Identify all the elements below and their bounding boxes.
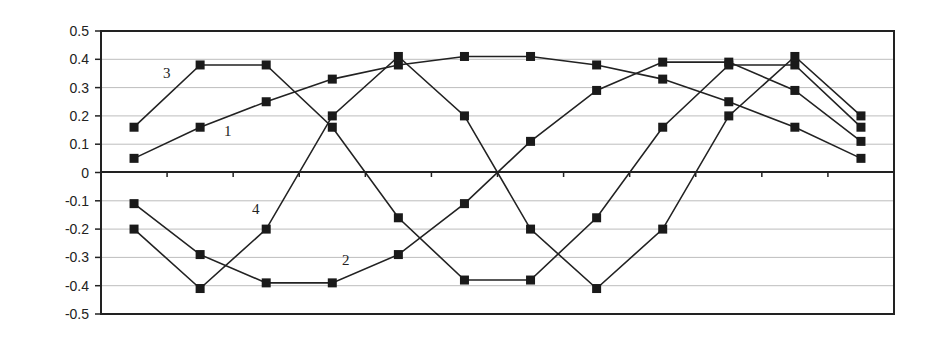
series-label-1: 1 xyxy=(224,123,232,139)
square-marker-icon xyxy=(856,154,865,163)
square-marker-icon xyxy=(196,123,205,132)
square-marker-icon xyxy=(526,137,535,146)
square-marker-icon xyxy=(592,86,601,95)
series-label-3: 3 xyxy=(163,65,171,81)
square-marker-icon xyxy=(394,60,403,69)
square-marker-icon xyxy=(394,213,403,222)
square-marker-icon xyxy=(592,284,601,293)
y-tick-label: 0.3 xyxy=(70,80,90,96)
square-marker-icon xyxy=(460,52,469,61)
square-marker-icon xyxy=(790,123,799,132)
square-marker-icon xyxy=(130,225,139,234)
square-marker-icon xyxy=(130,154,139,163)
y-tick-label: 0.2 xyxy=(70,108,90,124)
square-marker-icon xyxy=(526,225,535,234)
square-marker-icon xyxy=(658,123,667,132)
series-label-2: 2 xyxy=(342,252,350,268)
square-marker-icon xyxy=(856,111,865,120)
square-marker-icon xyxy=(724,60,733,69)
square-marker-icon xyxy=(658,58,667,67)
square-marker-icon xyxy=(196,284,205,293)
square-marker-icon xyxy=(460,199,469,208)
y-tick-label: -0.3 xyxy=(65,249,89,265)
square-marker-icon xyxy=(130,123,139,132)
square-marker-icon xyxy=(196,250,205,259)
line-chart: 0.50.40.30.20.10-0.1-0.2-0.3-0.4-0.5 3 1… xyxy=(0,0,940,337)
square-marker-icon xyxy=(460,276,469,285)
square-marker-icon xyxy=(790,86,799,95)
square-marker-icon xyxy=(592,213,601,222)
y-axis-tick-labels: 0.50.40.30.20.10-0.1-0.2-0.3-0.4-0.5 xyxy=(65,23,101,322)
y-tick-label: -0.1 xyxy=(65,193,89,209)
square-marker-icon xyxy=(658,225,667,234)
square-marker-icon xyxy=(328,123,337,132)
square-marker-icon xyxy=(724,111,733,120)
y-tick-label: 0.5 xyxy=(70,23,90,39)
square-marker-icon xyxy=(262,225,271,234)
square-marker-icon xyxy=(724,97,733,106)
square-marker-icon xyxy=(394,250,403,259)
square-marker-icon xyxy=(790,60,799,69)
square-marker-icon xyxy=(526,276,535,285)
square-marker-icon xyxy=(856,123,865,132)
y-tick-label: -0.5 xyxy=(65,306,89,322)
square-marker-icon xyxy=(658,75,667,84)
y-tick-label: -0.2 xyxy=(65,221,89,237)
series-label-4: 4 xyxy=(252,201,260,217)
y-tick-label: 0.1 xyxy=(70,136,90,152)
square-marker-icon xyxy=(262,97,271,106)
square-marker-icon xyxy=(592,60,601,69)
y-tick-label: 0.4 xyxy=(70,51,90,67)
square-marker-icon xyxy=(460,111,469,120)
square-marker-icon xyxy=(262,278,271,287)
square-marker-icon xyxy=(328,278,337,287)
square-marker-icon xyxy=(130,199,139,208)
series-1 xyxy=(130,52,866,163)
square-marker-icon xyxy=(856,137,865,146)
square-marker-icon xyxy=(262,60,271,69)
square-marker-icon xyxy=(526,52,535,61)
square-marker-icon xyxy=(328,111,337,120)
square-marker-icon xyxy=(196,60,205,69)
y-tick-label: 0 xyxy=(81,165,89,181)
square-marker-icon xyxy=(394,52,403,61)
square-marker-icon xyxy=(328,75,337,84)
y-tick-label: -0.4 xyxy=(65,278,89,294)
square-marker-icon xyxy=(790,52,799,61)
